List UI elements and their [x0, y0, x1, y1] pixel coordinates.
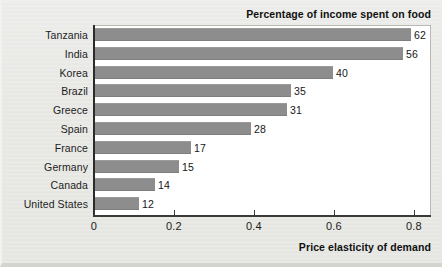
bar	[95, 122, 251, 135]
x-tick-mark	[334, 210, 335, 217]
bar-value-label: 12	[142, 198, 154, 210]
x-tick-mark	[94, 210, 95, 217]
category-label: Germany	[44, 161, 88, 173]
x-tick-label: 0	[74, 220, 114, 232]
x-tick-mark	[254, 210, 255, 217]
bar-value-label: 62	[414, 29, 426, 41]
category-label: India	[65, 48, 88, 60]
bar	[95, 197, 139, 210]
category-label: Brazil	[61, 85, 88, 97]
bar-value-label: 56	[406, 48, 418, 60]
bar	[95, 103, 287, 116]
bar-value-label: 15	[182, 161, 194, 173]
category-label: France	[55, 142, 88, 154]
category-label: Tanzania	[45, 29, 88, 41]
chart-figure: Percentage of income spent on food 00.20…	[0, 0, 442, 267]
bar	[95, 28, 411, 41]
x-tick-label: 0.2	[154, 220, 194, 232]
x-axis-title: Price elasticity of demand	[2, 241, 431, 253]
x-tick-label: 0.4	[234, 220, 274, 232]
bar	[95, 178, 155, 191]
bar	[95, 160, 179, 173]
category-label: Canada	[51, 179, 88, 191]
x-tick-mark	[174, 210, 175, 217]
x-axis-line	[93, 215, 431, 217]
y-axis-line	[93, 25, 95, 216]
bar-value-label: 28	[254, 123, 266, 135]
bar	[95, 47, 403, 60]
x-tick-label: 0.6	[314, 220, 354, 232]
chart-title: Percentage of income spent on food	[2, 8, 431, 20]
category-label: Greece	[53, 104, 88, 116]
bar-value-label: 17	[194, 142, 206, 154]
bar	[95, 84, 291, 97]
bar	[95, 141, 191, 154]
category-label: United States	[24, 198, 88, 210]
category-label: Spain	[61, 123, 88, 135]
x-tick-mark	[414, 210, 415, 217]
x-tick-label: 0.8	[394, 220, 434, 232]
bar	[95, 66, 333, 79]
bar-value-label: 14	[158, 179, 170, 191]
category-label: Korea	[59, 67, 88, 79]
bar-value-label: 31	[290, 104, 302, 116]
bar-value-label: 35	[294, 85, 306, 97]
bar-value-label: 40	[336, 67, 348, 79]
